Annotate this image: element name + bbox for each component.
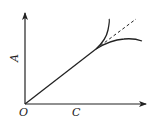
linear-extrapolation: [96, 19, 136, 49]
linear-segment: [25, 49, 96, 104]
x-axis-label: C: [72, 106, 81, 119]
y-axis-label: A: [8, 54, 21, 63]
diagram-canvas: O C A: [0, 0, 156, 124]
origin-label: O: [19, 106, 28, 119]
